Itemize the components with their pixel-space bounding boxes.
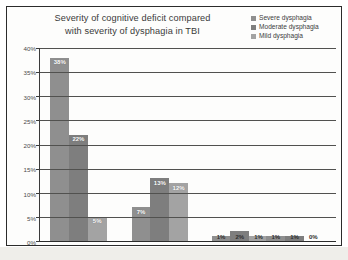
- bar-value-label: 38%: [54, 59, 66, 65]
- y-axis-tickmark: [36, 193, 40, 194]
- legend-swatch-icon: [251, 25, 256, 30]
- chart-figure: Severity of cognitive deficit compared w…: [0, 0, 348, 260]
- legend-swatch-icon: [251, 16, 256, 21]
- bar: 22%: [69, 135, 88, 241]
- plot-wrapper: 0%5%10%15%20%25%30%35%40% 38%22%5%7%13%1…: [12, 48, 336, 242]
- gridline: [40, 72, 336, 73]
- legend-swatch-icon: [251, 34, 256, 39]
- bar-value-label: 2%: [235, 234, 244, 240]
- plot-area: 38%22%5%7%13%12%1%2%1%1%1%0%: [39, 48, 336, 242]
- chart-title-line-1: Severity of cognitive deficit compared: [30, 12, 235, 25]
- bar-value-label: 7%: [137, 209, 146, 215]
- bar: 2%: [230, 231, 249, 241]
- gridline: [40, 241, 336, 242]
- y-axis-tick-label: 40%: [24, 45, 36, 52]
- y-axis-tick-label: 5%: [27, 214, 36, 221]
- bar-value-label: 1%: [254, 234, 263, 240]
- chart-title: Severity of cognitive deficit compared w…: [30, 12, 235, 38]
- paper-edge: [0, 247, 348, 260]
- gridline: [40, 96, 336, 97]
- gridline: [40, 48, 336, 49]
- bar-value-label: 0%: [309, 234, 318, 240]
- legend-item: Severe dysphagia: [251, 14, 319, 22]
- y-axis-tick-label: 20%: [24, 142, 36, 149]
- y-axis-tickmark: [36, 217, 40, 218]
- legend-item-label: Moderate dysphagia: [259, 23, 319, 31]
- chart-legend: Severe dysphagiaModerate dysphagiaMild d…: [251, 14, 319, 40]
- legend-item: Moderate dysphagia: [251, 23, 319, 31]
- y-axis-tick-label: 25%: [24, 117, 36, 124]
- y-axis-tickmark: [36, 96, 40, 97]
- y-axis-tickmark: [36, 169, 40, 170]
- gridline: [40, 120, 336, 121]
- bar-value-label: 5%: [93, 218, 102, 224]
- bar-value-label: 1%: [290, 234, 299, 240]
- gridline: [40, 193, 336, 194]
- gridline: [40, 145, 336, 146]
- y-axis-tickmark: [36, 120, 40, 121]
- y-axis-tickmark: [36, 145, 40, 146]
- y-axis-tick-label: 35%: [24, 69, 36, 76]
- bar: 38%: [50, 58, 69, 241]
- y-axis-tickmark: [36, 241, 40, 242]
- y-axis-tick-label: 10%: [24, 190, 36, 197]
- y-axis-tickmark: [36, 48, 40, 49]
- legend-item-label: Severe dysphagia: [259, 14, 312, 22]
- y-axis-tickmark: [36, 72, 40, 73]
- y-axis-tick-label: 15%: [24, 166, 36, 173]
- bar: 5%: [88, 217, 107, 241]
- bar-value-label: 12%: [173, 185, 185, 191]
- y-axis-tick-label: 0%: [27, 239, 36, 246]
- legend-item-label: Mild dysphagia: [259, 32, 303, 40]
- bar: 13%: [150, 178, 169, 241]
- bar-value-label: 1%: [271, 234, 280, 240]
- bar-value-label: 22%: [72, 136, 84, 142]
- y-axis: 0%5%10%15%20%25%30%35%40%: [12, 48, 38, 242]
- legend-item: Mild dysphagia: [251, 32, 319, 40]
- y-axis-tick-label: 30%: [24, 93, 36, 100]
- bar-value-label: 13%: [154, 180, 166, 186]
- bar: 7%: [132, 207, 151, 241]
- bar-value-label: 1%: [217, 234, 226, 240]
- chart-title-line-2: with severity of dysphagia in TBI: [30, 25, 235, 38]
- gridline: [40, 169, 336, 170]
- gridline: [40, 217, 336, 218]
